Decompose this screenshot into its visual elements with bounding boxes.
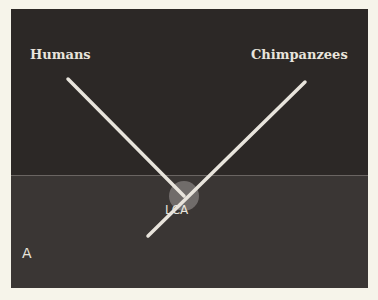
humans-branch (68, 79, 184, 196)
phylogeny-diagram (0, 0, 378, 300)
lca-label: LCA (165, 203, 188, 217)
panel-letter: A (22, 245, 32, 261)
chimpanzees-label: Chimpanzees (251, 47, 348, 62)
humans-label: Humans (30, 47, 91, 62)
